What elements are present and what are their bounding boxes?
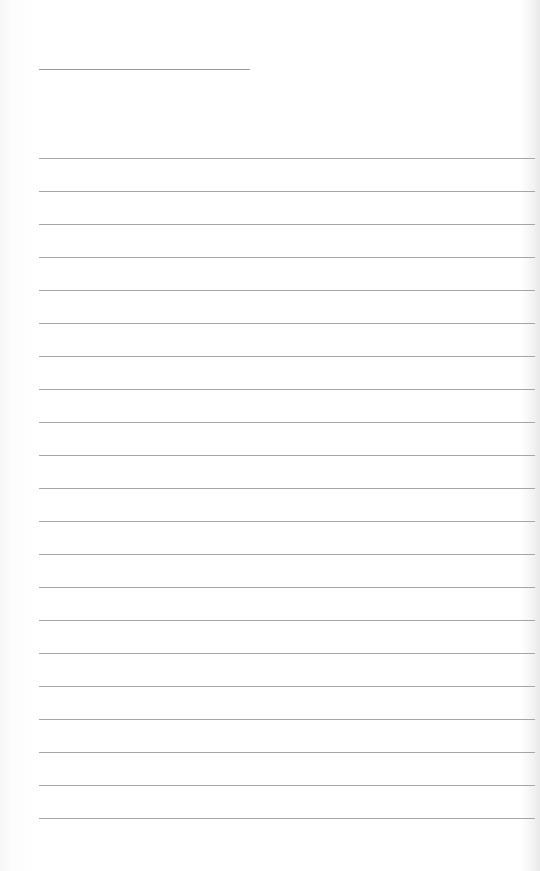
ruled-line: [39, 818, 535, 819]
ruled-line: [39, 653, 535, 654]
ruled-line: [39, 521, 535, 522]
lined-paper-page: [0, 0, 540, 871]
ruled-line: [39, 257, 535, 258]
ruled-line: [39, 620, 535, 621]
ruled-line: [39, 356, 535, 357]
ruled-line: [39, 224, 535, 225]
ruled-line: [39, 323, 535, 324]
ruled-line: [39, 719, 535, 720]
ruled-line: [39, 422, 535, 423]
ruled-line: [39, 158, 535, 159]
title-line: [39, 69, 250, 70]
ruled-line: [39, 488, 535, 489]
ruled-line: [39, 686, 535, 687]
ruled-line: [39, 752, 535, 753]
ruled-line: [39, 455, 535, 456]
ruled-line: [39, 554, 535, 555]
ruled-line: [39, 587, 535, 588]
ruled-line: [39, 290, 535, 291]
ruled-line: [39, 785, 535, 786]
ruled-line: [39, 191, 535, 192]
ruled-line: [39, 389, 535, 390]
